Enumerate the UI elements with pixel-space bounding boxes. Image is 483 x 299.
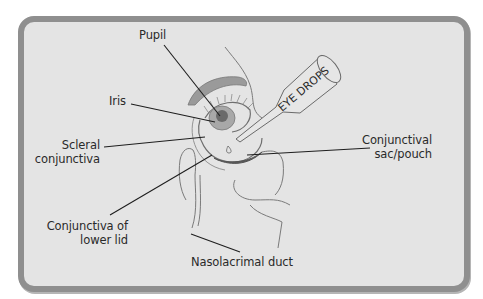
- label-nasolacrimal-duct: Nasolacrimal duct: [191, 256, 293, 269]
- label-sac-line2: sac/pouch: [360, 148, 432, 161]
- pupil: [216, 110, 228, 122]
- drop-icon: [227, 146, 232, 153]
- label-pupil: Pupil: [139, 29, 166, 42]
- label-lower-lid-line2: lower lid: [40, 234, 128, 247]
- label-scleral-line1: Scleral: [38, 139, 100, 152]
- right-hand: [262, 151, 283, 195]
- label-sac-line1: Conjunctival: [360, 134, 432, 147]
- label-lower-lid-line1: Conjunctiva of: [40, 220, 128, 233]
- label-iris: Iris: [109, 95, 126, 108]
- label-scleral-line2: conjunctiva: [30, 153, 100, 166]
- left-finger: [179, 148, 196, 228]
